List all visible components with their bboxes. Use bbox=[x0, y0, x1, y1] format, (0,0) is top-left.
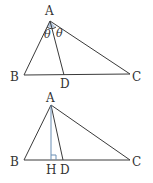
right-angle-marker bbox=[51, 155, 56, 160]
label-b-2: B bbox=[10, 155, 19, 169]
figure-1-angle-bisector: A B C D θ θ bbox=[10, 4, 141, 91]
label-d: D bbox=[60, 77, 70, 91]
label-a-2: A bbox=[45, 91, 55, 105]
label-c: C bbox=[132, 70, 141, 84]
triangle-abc-2 bbox=[24, 105, 130, 160]
label-h: H bbox=[46, 163, 56, 177]
theta-left: θ bbox=[44, 28, 51, 41]
label-c-2: C bbox=[132, 155, 141, 169]
triangle-abc bbox=[24, 21, 130, 75]
label-a: A bbox=[44, 4, 54, 18]
segment-ad bbox=[51, 105, 63, 160]
label-d-2: D bbox=[60, 163, 70, 177]
theta-right: θ bbox=[56, 27, 63, 40]
figure-2-altitude: A B C H D bbox=[10, 91, 141, 177]
geometry-diagram: A B C D θ θ A B C H D bbox=[0, 0, 153, 183]
label-b: B bbox=[10, 70, 19, 84]
